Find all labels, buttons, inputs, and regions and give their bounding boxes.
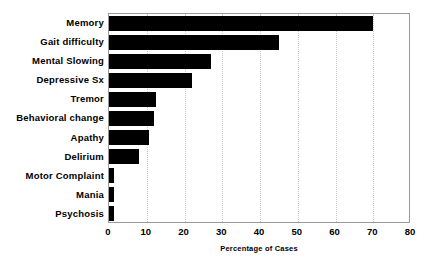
bar (109, 111, 154, 126)
category-label: Motor Complaint (0, 166, 104, 185)
bar-row (109, 186, 411, 205)
plot-area (108, 13, 410, 223)
bar-row (109, 14, 411, 33)
x-tick-label: 60 (329, 226, 340, 237)
bar-row (109, 52, 411, 71)
x-tick-label: 40 (254, 226, 265, 237)
bar (109, 35, 279, 50)
category-label: Psychosis (0, 204, 104, 223)
bar (109, 149, 139, 164)
bar-row (109, 71, 411, 90)
category-label: Mental Slowing (0, 51, 104, 70)
bar-row (109, 148, 411, 167)
bar-row (109, 90, 411, 109)
bar (109, 206, 114, 221)
category-label: Gait difficulty (0, 32, 104, 51)
x-tick-label: 50 (291, 226, 302, 237)
category-label: Tremor (0, 89, 104, 108)
bar-row (109, 205, 411, 224)
x-axis-title: Percentage of Cases (108, 244, 410, 253)
x-tick-label: 70 (367, 226, 378, 237)
x-tick-label: 0 (105, 226, 110, 237)
bar-row (109, 109, 411, 128)
bar-row (109, 167, 411, 186)
bar (109, 187, 114, 202)
bar (109, 92, 156, 107)
x-tick-label: 80 (405, 226, 416, 237)
category-axis-labels: MemoryGait difficultyMental SlowingDepre… (0, 13, 104, 223)
bars-layer (109, 14, 409, 222)
category-label: Mania (0, 185, 104, 204)
bar (109, 54, 211, 69)
category-label: Apathy (0, 128, 104, 147)
category-label: Depressive Sx (0, 70, 104, 89)
bar-row (109, 129, 411, 148)
bar-row (109, 33, 411, 52)
bar (109, 168, 114, 183)
value-axis-ticks: 01020304050607080 (108, 226, 410, 240)
bar (109, 73, 192, 88)
bar (109, 130, 149, 145)
x-tick-label: 20 (178, 226, 189, 237)
category-label: Memory (0, 13, 104, 32)
category-label: Delirium (0, 147, 104, 166)
category-label: Behavioral change (0, 108, 104, 127)
bar (109, 16, 373, 31)
x-tick-label: 30 (216, 226, 227, 237)
bar-chart: MemoryGait difficultyMental SlowingDepre… (0, 0, 428, 268)
x-tick-label: 10 (140, 226, 151, 237)
